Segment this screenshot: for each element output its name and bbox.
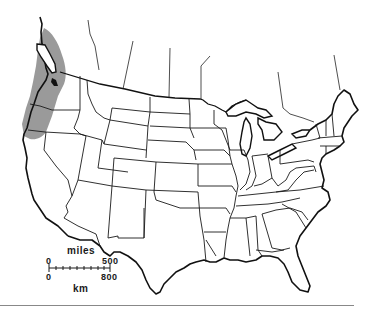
- scale-bottom-start-label: 0: [46, 272, 52, 282]
- scale-bar: [49, 264, 110, 272]
- lake-superior: [226, 100, 272, 118]
- map-canvas: [0, 0, 376, 312]
- footer-rule: [0, 305, 354, 306]
- lake-erie: [268, 144, 296, 160]
- lake-ontario: [292, 130, 310, 138]
- great-lakes: [226, 100, 310, 160]
- scale-top-end-label: 500: [102, 256, 119, 266]
- scale-bottom-end-label: 800: [101, 272, 118, 282]
- scale-top-start-label: 0: [46, 256, 52, 266]
- scale-bottom-unit-label: km: [73, 283, 88, 294]
- state-borders: [28, 76, 342, 262]
- canada-province-borders: [88, 20, 340, 122]
- lake-huron: [258, 118, 282, 140]
- scale-top-unit-label: miles: [67, 245, 95, 256]
